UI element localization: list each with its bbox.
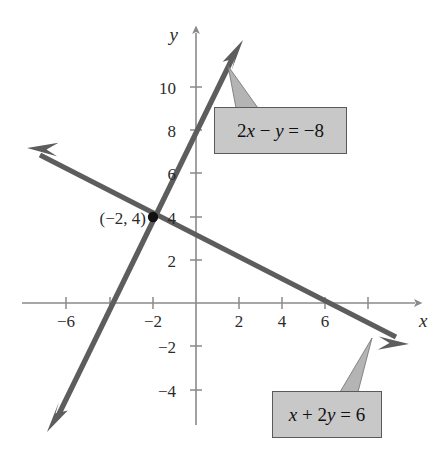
line-x-plus-2y-equals-6 — [27, 143, 409, 350]
y-tick-label-2: 2 — [168, 253, 177, 270]
coordinate-graph-figure: 10 8 6 4 2 −2 −4 −6 −2 2 4 6 y x (−2, 4)… — [0, 0, 448, 453]
callout-steep-var-x: x — [246, 120, 254, 141]
callout-shallow-coef: 2 — [318, 404, 328, 425]
callout-steep-text: 2x − y = −8 — [237, 121, 324, 140]
y-tick-label-10: 10 — [159, 80, 176, 97]
y-tick-label-6: 6 — [168, 166, 177, 183]
graph-canvas — [0, 0, 448, 453]
steep-line-arrowhead-up — [223, 40, 243, 70]
callout-shallow-equals: = 6 — [335, 404, 365, 425]
callout-box-steep-line: 2x − y = −8 — [214, 107, 347, 154]
y-tick-label-4: 4 — [168, 210, 177, 227]
y-tick-label--2: −2 — [158, 339, 176, 356]
y-axis-label: y — [170, 25, 178, 44]
x-tick-label-2: 2 — [235, 313, 244, 330]
y-tick-label-8: 8 — [168, 123, 177, 140]
x-axis-label: x — [419, 311, 427, 330]
line-2x-minus-y-equals-minus-8 — [47, 40, 243, 432]
callout-shallow-plus: + — [297, 404, 317, 425]
callout-leader-shallow — [340, 338, 372, 392]
intersection-point-label: (−2, 4) — [100, 210, 146, 227]
callout-steep-equals: = −8 — [284, 120, 324, 141]
callout-steep-minus: − — [255, 120, 275, 141]
x-tick-label--6: −6 — [57, 313, 75, 330]
callout-shallow-text: x + 2y = 6 — [289, 405, 365, 424]
x-tick-label--2: −2 — [144, 313, 162, 330]
y-tick-label--4: −4 — [158, 383, 176, 400]
intersection-point-dot — [148, 212, 158, 222]
callout-leader-steep — [228, 66, 258, 108]
x-tick-label-4: 4 — [278, 313, 287, 330]
x-tick-label-6: 6 — [321, 313, 330, 330]
callout-steep-var-y: y — [275, 120, 283, 141]
callout-box-shallow-line: x + 2y = 6 — [272, 391, 382, 438]
